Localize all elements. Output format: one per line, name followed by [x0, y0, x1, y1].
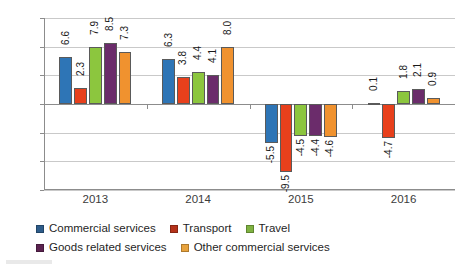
- bar[interactable]: [294, 104, 307, 136]
- bar[interactable]: [59, 57, 72, 104]
- bar-value-label: 8.0: [223, 21, 233, 35]
- bar-slot: 6.3: [161, 18, 176, 190]
- bar-value-label: 4.1: [208, 49, 218, 63]
- bar[interactable]: [104, 43, 117, 104]
- bar-slot: 8.5: [103, 18, 118, 190]
- bar-slot: 0.1: [367, 18, 382, 190]
- bar-slot: -9.5: [279, 18, 294, 190]
- x-axis-label-2013: 2013: [83, 193, 109, 205]
- bar-value-label: 2.1: [413, 63, 423, 77]
- bar[interactable]: [89, 47, 102, 104]
- bar-slot: 3.8: [176, 18, 191, 190]
- legend-label: Transport: [183, 223, 232, 235]
- y-axis-tick: [40, 190, 44, 191]
- bar[interactable]: [368, 103, 381, 105]
- legend-label: Commercial services: [49, 223, 156, 235]
- legend-item-transport[interactable]: Transport: [170, 223, 232, 235]
- bar-group-2016: 0.1-4.71.82.10.9: [352, 18, 455, 190]
- chart-legend: Commercial servicesTransportTravelGoods …: [36, 221, 456, 259]
- legend-label: Travel: [259, 223, 291, 235]
- bar-slot: 1.8: [396, 18, 411, 190]
- bar-chart: 12.08.04.00.0-4.0-8.0-12.06.62.37.98.57.…: [0, 0, 461, 265]
- bar-value-label: 6.6: [61, 31, 71, 45]
- legend-label: Goods related services: [49, 242, 167, 254]
- legend-item-commercial-services[interactable]: Commercial services: [36, 223, 156, 235]
- x-axis-group-tick: [147, 104, 148, 109]
- bar-value-label: -4.6: [325, 140, 335, 157]
- x-axis-group-tick: [250, 104, 251, 109]
- legend-item-other-commercial-services[interactable]: Other commercial services: [181, 242, 330, 254]
- bar-slot: -4.4: [308, 18, 323, 190]
- legend-swatch-icon: [246, 225, 254, 233]
- bar[interactable]: [309, 104, 322, 136]
- bar-slot: 8.0: [220, 18, 235, 190]
- bar[interactable]: [382, 104, 395, 138]
- bar[interactable]: [207, 75, 220, 104]
- x-axis-group-tick: [352, 104, 353, 109]
- bar-slot: -4.5: [293, 18, 308, 190]
- bar[interactable]: [162, 59, 175, 104]
- bar-value-label: -4.4: [311, 139, 321, 156]
- bar-value-label: -5.5: [266, 146, 276, 163]
- bar-group-2015: -5.5-9.5-4.5-4.4-4.6: [250, 18, 353, 190]
- bar-slot: 7.9: [88, 18, 103, 190]
- bar-group-2014: 6.33.84.44.18.0: [147, 18, 250, 190]
- x-axis-label-2016: 2016: [391, 193, 417, 205]
- bar[interactable]: [412, 89, 425, 104]
- plot-area: 12.08.04.00.0-4.0-8.0-12.06.62.37.98.57.…: [44, 18, 455, 190]
- bar-slot: -4.6: [323, 18, 338, 190]
- bar-group-2013: 6.62.37.98.57.3: [44, 18, 147, 190]
- legend-item-goods-related-services[interactable]: Goods related services: [36, 242, 167, 254]
- legend-row: Goods related servicesOther commercial s…: [36, 240, 456, 256]
- bar[interactable]: [119, 52, 132, 104]
- legend-row: Commercial servicesTransportTravel: [36, 221, 456, 237]
- x-axis-label-2015: 2015: [288, 193, 314, 205]
- bar-slot: 4.1: [206, 18, 221, 190]
- bar-value-label: 6.3: [164, 33, 174, 47]
- x-axis-label-2014: 2014: [185, 193, 211, 205]
- gridline: [44, 190, 455, 191]
- bar-slot: 7.3: [118, 18, 133, 190]
- legend-swatch-icon: [181, 244, 189, 252]
- bar-slot: 0.9: [426, 18, 441, 190]
- bar-slot: 6.6: [58, 18, 73, 190]
- bar-value-label: 2.3: [76, 62, 86, 76]
- bar[interactable]: [324, 104, 337, 137]
- legend-swatch-icon: [170, 225, 178, 233]
- bar-value-label: 8.5: [105, 17, 115, 31]
- bar[interactable]: [397, 91, 410, 104]
- bar[interactable]: [265, 104, 278, 143]
- bar-value-label: 1.8: [399, 65, 409, 79]
- bar[interactable]: [280, 104, 293, 172]
- bar[interactable]: [192, 72, 205, 104]
- bar[interactable]: [74, 88, 87, 104]
- legend-item-travel[interactable]: Travel: [246, 223, 291, 235]
- bar-value-label: 3.8: [178, 51, 188, 65]
- bar-value-label: -4.7: [384, 141, 394, 158]
- bar[interactable]: [177, 77, 190, 104]
- bar-slot: -5.5: [264, 18, 279, 190]
- bar-value-label: -4.5: [296, 139, 306, 156]
- footer-marker: [6, 260, 52, 264]
- bar-value-label: 4.4: [193, 46, 203, 60]
- legend-label: Other commercial services: [194, 242, 330, 254]
- bar-slot: 2.1: [411, 18, 426, 190]
- bar-value-label: -9.5: [281, 175, 291, 192]
- bar-slot: -4.7: [381, 18, 396, 190]
- bar[interactable]: [221, 47, 234, 104]
- legend-swatch-icon: [36, 225, 44, 233]
- legend-swatch-icon: [36, 244, 44, 252]
- bar-value-label: 0.1: [369, 77, 379, 91]
- bar-slot: 4.4: [191, 18, 206, 190]
- bar[interactable]: [427, 98, 440, 104]
- bar-slot: 2.3: [73, 18, 88, 190]
- bar-value-label: 0.9: [428, 72, 438, 86]
- bar-value-label: 7.3: [120, 26, 130, 40]
- bar-value-label: 7.9: [90, 21, 100, 35]
